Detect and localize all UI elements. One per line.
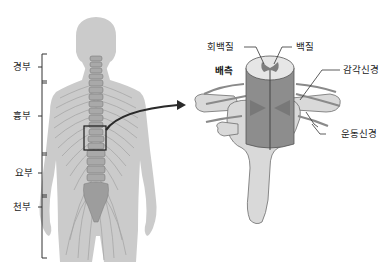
label-sensory-nerve: 감각신경	[343, 65, 379, 75]
label-gray-matter: 회백질	[207, 42, 234, 52]
region-label-thoracic: 흉부	[13, 111, 31, 121]
spinal-diagram: 경부 흉부 요부 천부 회백질 백질 배측 감각신경 운동신경	[0, 0, 392, 270]
region-label-sacral: 천부	[13, 202, 31, 212]
spinal-cord	[246, 56, 294, 150]
diagram-graphics	[0, 0, 392, 270]
arrow-head-icon	[177, 100, 186, 110]
label-white-matter: 백질	[296, 42, 314, 52]
label-dorsal: 배측	[215, 66, 233, 76]
region-label-lumbar: 요부	[15, 168, 33, 178]
label-motor-nerve: 운동신경	[341, 129, 377, 139]
spinal-column	[87, 56, 105, 181]
region-label-cervical: 경부	[13, 62, 31, 72]
